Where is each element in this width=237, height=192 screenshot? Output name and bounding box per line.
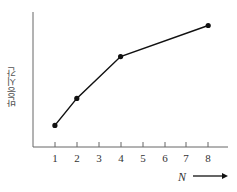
x-axis-label: N	[178, 170, 186, 185]
y-axis-label: 반응시간	[2, 62, 22, 112]
x-tick-label: 8	[202, 152, 214, 164]
data-series-line	[55, 26, 208, 126]
x-axis-ticks	[55, 142, 208, 147]
arrow-head-icon	[222, 173, 228, 179]
data-point-marker	[118, 54, 123, 59]
data-point-marker	[52, 123, 57, 128]
x-tick-label: 6	[159, 152, 171, 164]
data-point-marker	[74, 96, 79, 101]
data-point-marker	[206, 23, 211, 28]
x-tick-label: 3	[93, 152, 105, 164]
x-tick-label: 5	[137, 152, 149, 164]
data-points	[52, 23, 210, 128]
x-tick-label: 4	[115, 152, 127, 164]
x-tick-label: 1	[49, 152, 61, 164]
x-tick-label: 2	[71, 152, 83, 164]
line-chart: 반응시간 1 2 3 4 5 6 7 8 N	[0, 0, 237, 192]
x-tick-label: 7	[180, 152, 192, 164]
